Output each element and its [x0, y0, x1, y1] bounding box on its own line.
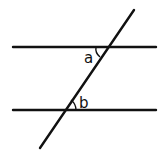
- transversal-line: [40, 10, 134, 148]
- diagram-canvas: a b: [0, 0, 168, 163]
- angle-b-arc: [71, 100, 76, 110]
- angle-a-label: a: [84, 49, 93, 67]
- angle-a-arc: [96, 47, 100, 57]
- parallel-lines-diagram: a b: [0, 0, 168, 163]
- angle-b-label: b: [79, 94, 89, 112]
